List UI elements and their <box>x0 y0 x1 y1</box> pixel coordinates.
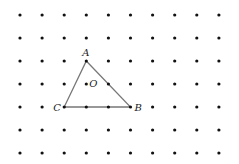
grid-dot <box>85 105 88 108</box>
grid-dot <box>85 128 88 131</box>
grid-dot <box>85 82 88 85</box>
grid-dot <box>195 151 198 154</box>
grid-dot <box>107 128 110 131</box>
grid-dot <box>195 128 198 131</box>
grid-dot <box>173 82 176 85</box>
grid-dot <box>195 36 198 39</box>
grid-dot <box>217 13 220 16</box>
grid-dot <box>63 128 66 131</box>
grid-dot <box>107 105 110 108</box>
grid-dot <box>85 151 88 154</box>
grid-dot <box>63 105 66 108</box>
grid-dot <box>18 128 21 131</box>
label-o: O <box>89 78 97 89</box>
grid-dot <box>63 82 66 85</box>
grid-dot <box>107 36 110 39</box>
grid-dot <box>173 59 176 62</box>
grid-dot <box>217 36 220 39</box>
grid-dot <box>18 13 21 16</box>
dot-grid-diagram: ABCO <box>0 0 239 164</box>
grid-dot <box>107 151 110 154</box>
grid-dot <box>217 59 220 62</box>
grid-dot <box>151 82 154 85</box>
grid-dot <box>129 59 132 62</box>
grid-dot <box>18 36 21 39</box>
grid-dot <box>41 105 44 108</box>
grid-dot <box>217 128 220 131</box>
grid-dot <box>129 105 132 108</box>
diagram-canvas: ABCO <box>0 0 239 164</box>
grid-dot <box>18 151 21 154</box>
label-c: C <box>53 102 61 113</box>
grid-dot <box>41 151 44 154</box>
grid-dot <box>85 36 88 39</box>
grid-dot <box>173 36 176 39</box>
grid-dot <box>151 59 154 62</box>
grid-dot <box>217 82 220 85</box>
grid-dot <box>151 128 154 131</box>
grid-dot <box>195 59 198 62</box>
grid-dot <box>151 36 154 39</box>
grid-dot <box>63 151 66 154</box>
grid-dot <box>129 151 132 154</box>
grid-dot <box>173 151 176 154</box>
grid-dot <box>129 128 132 131</box>
grid-dot <box>18 105 21 108</box>
grid-dot <box>195 82 198 85</box>
grid-dot <box>173 105 176 108</box>
label-a: A <box>81 47 89 58</box>
grid-dot <box>173 13 176 16</box>
grid-dot <box>129 82 132 85</box>
grid-dot <box>41 59 44 62</box>
grid-dot <box>107 82 110 85</box>
grid-dot <box>41 82 44 85</box>
grid-dot <box>85 59 88 62</box>
grid-dot <box>63 13 66 16</box>
grid-dot <box>18 82 21 85</box>
grid-dot <box>107 13 110 16</box>
grid-dot <box>195 105 198 108</box>
grid-dot <box>85 13 88 16</box>
grid-dot <box>173 128 176 131</box>
grid-dot <box>129 13 132 16</box>
grid-dot <box>41 128 44 131</box>
grid-dot <box>107 59 110 62</box>
grid-dot <box>217 105 220 108</box>
grid-dot <box>41 36 44 39</box>
grid-dot <box>151 105 154 108</box>
grid-dot <box>129 36 132 39</box>
grid-dot <box>195 13 198 16</box>
grid-dot <box>151 151 154 154</box>
grid-dot <box>217 151 220 154</box>
grid-dot <box>151 13 154 16</box>
grid-dot <box>63 36 66 39</box>
grid-dot <box>18 59 21 62</box>
grid-dot <box>41 13 44 16</box>
label-b: B <box>134 102 142 113</box>
grid-dot <box>63 59 66 62</box>
